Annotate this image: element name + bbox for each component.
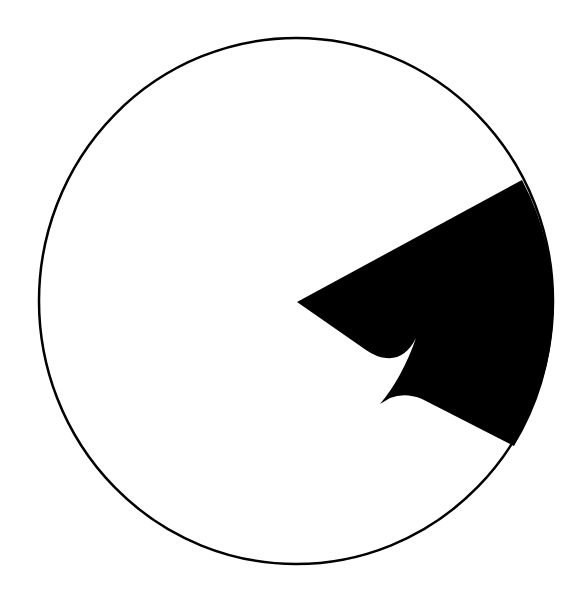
circle-wedge-diagram xyxy=(0,0,587,600)
figure-canvas xyxy=(0,0,587,600)
